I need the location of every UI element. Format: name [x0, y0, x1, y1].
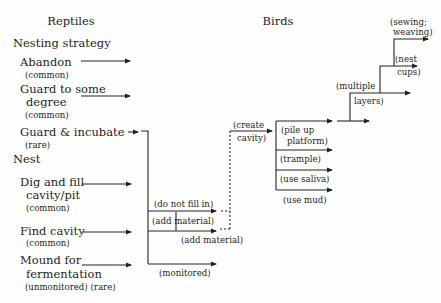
nest-mound-fermentation: Mound for fermentation (unmonitored) (ra…: [20, 253, 131, 292]
bird-construction: (pile up platform) (trample) (use saliva…: [276, 121, 332, 205]
frequency-label: (common): [25, 70, 69, 80]
construction-label: (trample): [280, 154, 321, 164]
strategy-label: Abandon: [19, 55, 72, 69]
create-cavity-label: (create: [233, 120, 264, 130]
section-nesting-strategy: Nesting strategy: [13, 36, 111, 50]
frequency-label: (common): [26, 238, 70, 248]
nest-label: Mound for: [20, 253, 82, 267]
branch-label-do-not-fill: (do not fill in): [154, 199, 213, 209]
bird-progression: (multiple layers) (nest cups) (sewing; w…: [336, 17, 433, 121]
construction-label: (pile up: [281, 125, 315, 135]
section-nest: Nest: [13, 152, 41, 166]
construction-label: (use mud): [283, 195, 327, 205]
construction-label: (use saliva): [280, 174, 329, 184]
progression-label-line2: layers): [354, 96, 384, 106]
progression-label-line2: weaving): [393, 27, 433, 37]
progression-label: (sewing;: [390, 17, 427, 27]
branch-label-add-material-2: (add material): [181, 235, 243, 245]
nest-dig-fill: Dig and fill cavity/pit (common): [20, 175, 131, 213]
nesting-evolution-diagram: Reptiles Birds Nesting strategy Abandon …: [0, 0, 441, 303]
strategy-abandon: Abandon (common): [19, 55, 130, 80]
progression-label: (multiple: [336, 81, 375, 91]
frequency-label: (unmonitored) (rare): [25, 282, 116, 292]
nest-label-line2: fermentation: [26, 267, 102, 281]
frequency-label: (common): [25, 110, 69, 120]
incubation-branch: (do not fill in) (add material) (monitor…: [141, 131, 230, 278]
strategy-guard-some: Guard to some degree (common): [20, 82, 130, 120]
create-cavity-label-line2: cavity): [237, 133, 266, 143]
birds-header: Birds: [263, 14, 294, 28]
bracket-line: [141, 131, 148, 264]
strategy-label-line2: degree: [26, 95, 67, 109]
nest-label: Dig and fill: [20, 175, 85, 189]
strategy-guard-incubate: Guard & incubate (rare): [20, 125, 138, 150]
branch-label-monitored: (monitored): [159, 268, 211, 278]
progression-label-line2: cups): [397, 67, 421, 77]
frequency-label: (rare): [25, 140, 50, 150]
nest-find-cavity: Find cavity (common): [20, 224, 131, 248]
reptiles-header: Reptiles: [47, 14, 95, 28]
construction-label-line2: platform): [287, 136, 328, 146]
frequency-label: (common): [26, 203, 70, 213]
nest-label: Find cavity: [20, 224, 85, 238]
create-cavity: (create cavity): [230, 120, 272, 143]
strategy-label: Guard & incubate: [20, 125, 125, 139]
nest-label-line2: cavity/pit: [26, 188, 81, 202]
strategy-label: Guard to some: [20, 82, 106, 96]
branch-label-add-material: (add material): [152, 216, 214, 226]
progression-label: (nest: [395, 54, 417, 64]
